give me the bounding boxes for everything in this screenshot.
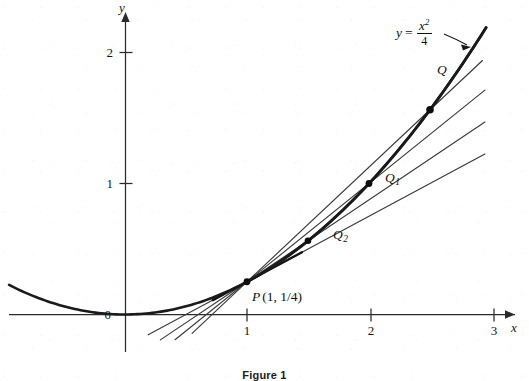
- y-tick-label-1: 1: [107, 176, 114, 191]
- equation-numerator: x2: [417, 18, 431, 33]
- point-label-Q1-name: Q: [385, 170, 395, 185]
- point-label-P-coords: (1, 1/4): [260, 289, 302, 304]
- point-label-Q1-subscript: 1: [395, 177, 400, 187]
- point-label-P: P(1, 1/4): [252, 290, 302, 304]
- equation-leader-arrow: [444, 34, 467, 45]
- equation-annotation: y = x2 4: [396, 18, 432, 47]
- y-tick-label-2: 2: [107, 45, 114, 60]
- parabola-curve-right-arm: [248, 28, 487, 282]
- point-label-Q-subscript: [447, 69, 448, 79]
- figure-caption: Figure 1: [0, 369, 529, 381]
- point-label-Q1: Q1: [385, 171, 400, 187]
- x-tick-label-1: 1: [244, 323, 251, 338]
- equation-leader-arrowhead: [461, 45, 471, 51]
- y-axis: [121, 12, 129, 352]
- equation-denominator: 4: [421, 34, 427, 47]
- point-label-Q2-subscript: 2: [343, 234, 348, 244]
- point-label-P-name: P: [252, 289, 260, 304]
- parabola-curve: [9, 28, 486, 315]
- x-axis-arrowhead: [505, 310, 515, 318]
- x-tick-label-3: 3: [491, 323, 498, 338]
- equation-numerator-exponent: 2: [425, 17, 429, 27]
- x-axis-label: x: [510, 320, 517, 335]
- point-Q1-dot: [366, 180, 373, 187]
- equation-fraction: x2 4: [417, 18, 432, 47]
- tangent-line-at-P: [148, 154, 485, 335]
- x-tick-label-2: 2: [368, 323, 375, 338]
- equation-equals-sign: =: [402, 26, 417, 40]
- point-label-Q2: Q2: [333, 228, 348, 244]
- point-label-Q: Q: [437, 63, 447, 79]
- point-label-Q-name: Q: [437, 62, 447, 77]
- secant-line-P-Q2: [160, 122, 485, 340]
- y-axis-label: y: [117, 0, 125, 15]
- point-P-dot: [244, 278, 251, 285]
- point-Q-dot: [426, 106, 434, 114]
- point-label-Q2-name: Q: [333, 227, 343, 242]
- point-Q2-dot: [305, 238, 312, 245]
